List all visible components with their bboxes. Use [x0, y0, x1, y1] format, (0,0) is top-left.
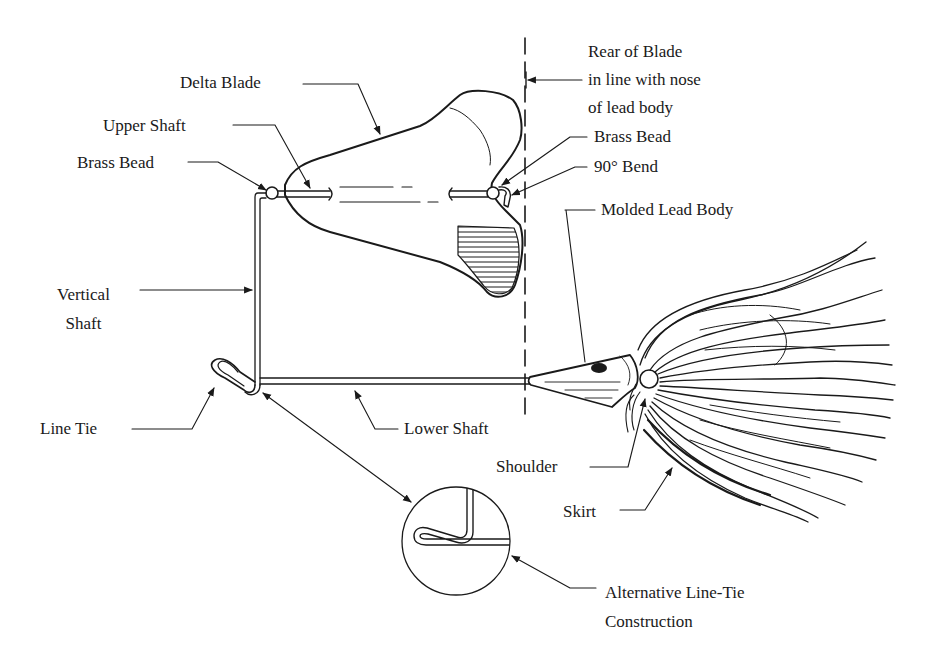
label-upper-shaft: Upper Shaft [103, 116, 186, 136]
brass-bead-right [487, 187, 499, 199]
alternative-line-tie-inset [402, 487, 512, 595]
upper-shaft [276, 188, 488, 200]
label-alt-line-tie-line-1: Alternative Line-Tie [605, 578, 745, 607]
brass-bead-left [266, 187, 278, 199]
molded-lead-body [529, 355, 638, 407]
label-alt-line-tie-line-2: Construction [605, 607, 745, 636]
label-brass-bead-left: Brass Bead [77, 153, 154, 173]
diagram-artwork [0, 0, 926, 668]
label-rear-of-blade-line-3: of lead body [588, 94, 701, 122]
lower-shaft [260, 378, 530, 384]
label-rear-of-blade-line-2: in line with nose [588, 66, 701, 94]
label-90-degree-bend: 90° Bend [594, 157, 658, 177]
label-molded-lead-body: Molded Lead Body [601, 200, 733, 220]
line-tie [212, 359, 260, 395]
label-vertical-shaft-line-1: Vertical [57, 280, 110, 309]
label-delta-blade: Delta Blade [180, 73, 261, 93]
label-alternative-line-tie: Alternative Line-Tie Construction [605, 578, 745, 636]
label-vertical-shaft: Vertical Shaft [57, 280, 110, 338]
spinnerbait-diagram: Delta Blade Upper Shaft Brass Bead Rear … [0, 0, 926, 668]
label-rear-of-blade-line-1: Rear of Blade [588, 38, 701, 66]
label-line-tie: Line Tie [40, 419, 97, 439]
label-rear-of-blade: Rear of Blade in line with nose of lead … [588, 38, 701, 122]
label-lower-shaft: Lower Shaft [404, 419, 489, 439]
label-skirt: Skirt [563, 502, 596, 522]
label-shoulder: Shoulder [496, 457, 557, 477]
vertical-shaft [255, 193, 266, 385]
label-vertical-shaft-line-2: Shaft [57, 309, 110, 338]
skirt [638, 242, 895, 522]
label-brass-bead-right: Brass Bead [594, 127, 671, 147]
